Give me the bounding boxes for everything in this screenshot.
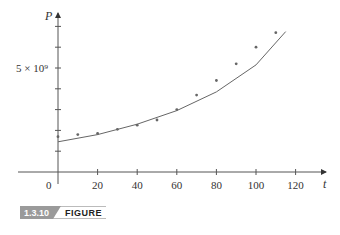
data-point <box>156 119 159 122</box>
data-points <box>57 31 278 138</box>
data-point <box>215 79 218 82</box>
x-tick-label: 60 <box>171 179 183 191</box>
chart: P t 0 5 × 10⁹ 20406080100120 <box>0 0 340 235</box>
y-tick-label: 5 × 10⁹ <box>16 62 48 74</box>
data-point <box>76 133 79 136</box>
data-point <box>235 62 238 65</box>
data-point <box>274 31 277 34</box>
x-tick-label: 40 <box>132 179 144 191</box>
data-point <box>136 124 139 127</box>
data-point <box>96 132 99 135</box>
x-tick-label: 20 <box>92 179 104 191</box>
origin-label: 0 <box>46 179 52 191</box>
figure-caption: 1.3.10 FIGURE <box>20 206 106 219</box>
x-tick-label: 120 <box>287 179 304 191</box>
data-point <box>175 108 178 111</box>
x-tick-label: 100 <box>248 179 265 191</box>
data-point <box>195 94 198 97</box>
data-point <box>255 46 258 49</box>
data-point <box>116 128 119 131</box>
x-tick-labels: 20406080100120 <box>92 179 304 191</box>
y-axis-label: P <box>44 9 53 23</box>
data-point <box>57 135 60 138</box>
x-tick-label: 80 <box>211 179 223 191</box>
fit-curve <box>58 32 286 142</box>
figure-number: 1.3.10 <box>20 206 53 219</box>
x-axis-label: t <box>323 177 327 191</box>
